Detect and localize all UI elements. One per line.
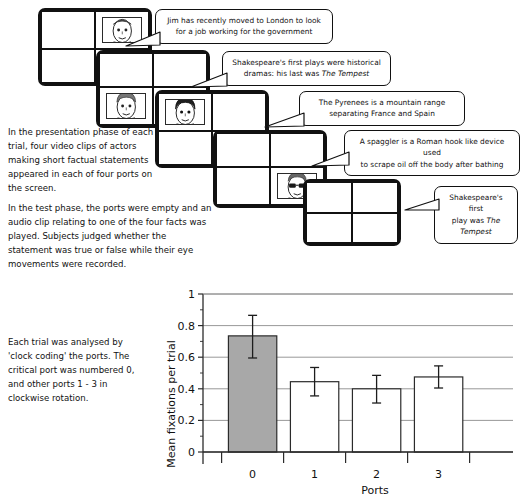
paragraph-test-phase: In the test phase, the ports were empty … (8, 202, 213, 272)
speech-bubble-3: The Pyrenees is a mountain range separat… (299, 91, 465, 126)
speech-bubble-2: Shakespeare's first plays were historica… (222, 51, 391, 86)
chart-x-axis-title: Ports (361, 484, 389, 497)
bubble-line-italic: The Tempest (322, 69, 369, 78)
experiment-figure: Jim has recently moved to London to look… (0, 0, 522, 503)
y-tick-label: 0.6 (178, 351, 196, 364)
x-tick-label: 0 (249, 468, 256, 481)
y-tick-label: 0.4 (178, 383, 196, 396)
bubble-tail-5 (404, 196, 440, 216)
x-tick-label: 3 (435, 468, 442, 481)
bubble-line: for a job working for the government (176, 27, 313, 36)
chart-y-tick-labels: 00.20.40.60.81 (178, 288, 196, 459)
bubble-line: play was (452, 216, 487, 225)
y-tick-label: 0.2 (178, 414, 196, 427)
port-cell (212, 93, 266, 131)
bubble-line: to scrape oil off the body after bathing (361, 160, 504, 169)
paragraph-analysis: Each trial was analysed by 'clock coding… (8, 336, 148, 406)
speech-bubble-1: Jim has recently moved to London to look… (155, 9, 333, 44)
port-cell (41, 11, 95, 49)
chart-svg: 00.20.40.60.81 0123 Mean fixations per t… (163, 286, 522, 503)
bubble-tail-4 (311, 150, 350, 172)
bubble-line: separating France and Spain (329, 109, 435, 118)
x-tick-label: 2 (373, 468, 380, 481)
port-cell (158, 131, 212, 165)
y-tick-label: 1 (188, 288, 195, 301)
y-tick-label: 0 (188, 446, 195, 459)
bubble-line: A spaggler is a Roman hook like device u… (360, 137, 505, 157)
port-cell (41, 49, 95, 83)
mean-fixations-bar-chart: 00.20.40.60.81 0123 Mean fixations per t… (163, 286, 522, 503)
paragraph-presentation-phase: In the presentation phase of each trial,… (8, 126, 156, 196)
port-cell (306, 182, 352, 213)
chart-y-axis-title: Mean fixations per trial (165, 340, 178, 467)
port-cell (158, 93, 212, 131)
short-hair-face-icon (106, 93, 147, 120)
port-cell (352, 182, 398, 213)
port-screen-5-empty (303, 179, 401, 246)
y-tick-label: 0.8 (178, 320, 196, 333)
port-cell (216, 167, 270, 205)
speech-bubble-5: Shakespeare's first play was The Tempest (434, 186, 518, 244)
chart-x-tick-labels: 0123 (249, 468, 442, 481)
port-cell (216, 133, 270, 167)
bubble-line: dramas: his last was (244, 69, 322, 78)
bubble-line: Jim has recently moved to London to look (167, 16, 321, 25)
bubble-line: Shakespeare's first plays were historica… (232, 58, 381, 67)
dark-hair-face-icon (165, 99, 206, 126)
port-cell (352, 213, 398, 244)
port-cell (306, 213, 352, 244)
x-tick-label: 1 (311, 468, 318, 481)
speech-bubble-4: A spaggler is a Roman hook like device u… (344, 130, 520, 176)
bubble-line: The Pyrenees is a mountain range (319, 98, 446, 107)
bubble-line: Shakespeare's first (449, 193, 502, 213)
port-cell (99, 87, 153, 125)
chart-bars (228, 336, 462, 452)
bubble-tail-1 (125, 30, 161, 52)
port-cell (99, 53, 153, 87)
